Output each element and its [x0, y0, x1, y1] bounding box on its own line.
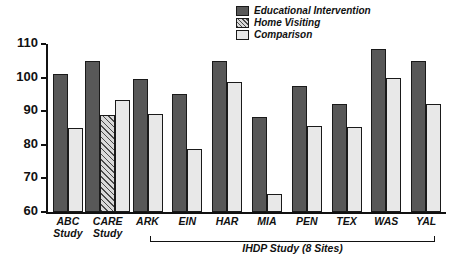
bar: [332, 104, 347, 212]
bar: [252, 117, 267, 212]
y-axis-tick: 60: [41, 211, 46, 213]
legend-label: Comparison: [254, 29, 312, 40]
bar: [307, 126, 322, 212]
x-axis-category-label: MIA: [247, 215, 287, 227]
x-axis-category-label: ABC Study: [48, 215, 88, 239]
x-axis-category-label: ARK: [128, 215, 168, 227]
x-axis-category-label: PEN: [287, 215, 327, 227]
light-solid-swatch-icon: [236, 30, 249, 40]
bar: [115, 100, 130, 212]
y-axis-tick: 100: [41, 77, 46, 79]
bar: [292, 86, 307, 212]
y-axis-tick: 90: [41, 110, 46, 112]
bar: [53, 74, 68, 212]
bar: [100, 115, 115, 212]
dark-solid-swatch-icon: [236, 6, 249, 16]
bar: [85, 61, 100, 212]
bars-container: [48, 44, 446, 212]
y-axis-tick-label: 80: [24, 136, 38, 151]
bar: [133, 79, 148, 212]
hatched-swatch-icon: [236, 18, 249, 28]
bar: [371, 49, 386, 212]
x-axis-category-label: YAL: [406, 215, 446, 227]
bar: [347, 127, 362, 212]
bar: [68, 128, 83, 212]
legend-label: Home Visiting: [254, 17, 320, 28]
legend-item-comparison: Comparison: [236, 29, 371, 40]
x-axis-category-label: WAS: [366, 215, 406, 227]
y-axis-tick-label: 100: [16, 69, 38, 84]
plot-area: 11010090807060: [46, 44, 446, 212]
y-axis-tick: 110: [41, 43, 46, 45]
y-axis-tick: 80: [41, 144, 46, 146]
bar: [212, 61, 227, 212]
y-axis-tick-label: 70: [24, 169, 38, 184]
ihdp-group-label: IHDP Study (8 Sites): [150, 242, 435, 255]
bar: [411, 61, 426, 212]
bar: [386, 78, 401, 212]
legend-label: Educational Intervention: [254, 5, 371, 16]
bar: [267, 194, 282, 212]
y-axis-tick: 70: [41, 177, 46, 179]
bar: [187, 149, 202, 213]
bar: [227, 82, 242, 212]
bar-chart-figure: Educational Intervention Home Visiting C…: [0, 0, 457, 257]
legend-item-educational-intervention: Educational Intervention: [236, 5, 371, 16]
bar: [172, 94, 187, 212]
y-axis-tick-label: 90: [24, 102, 38, 117]
x-axis-line: [46, 212, 446, 214]
x-axis-category-label: EIN: [167, 215, 207, 227]
x-axis-category-label: HAR: [207, 215, 247, 227]
y-axis-tick-label: 110: [17, 35, 38, 50]
x-axis-category-label: CARE Study: [88, 215, 128, 239]
legend-item-home-visiting: Home Visiting: [236, 17, 371, 28]
x-axis-category-label: TEX: [327, 215, 367, 227]
y-axis-tick-label: 60: [24, 203, 38, 218]
bar: [426, 104, 441, 212]
bar: [148, 114, 163, 212]
chart-legend: Educational Intervention Home Visiting C…: [236, 5, 371, 40]
